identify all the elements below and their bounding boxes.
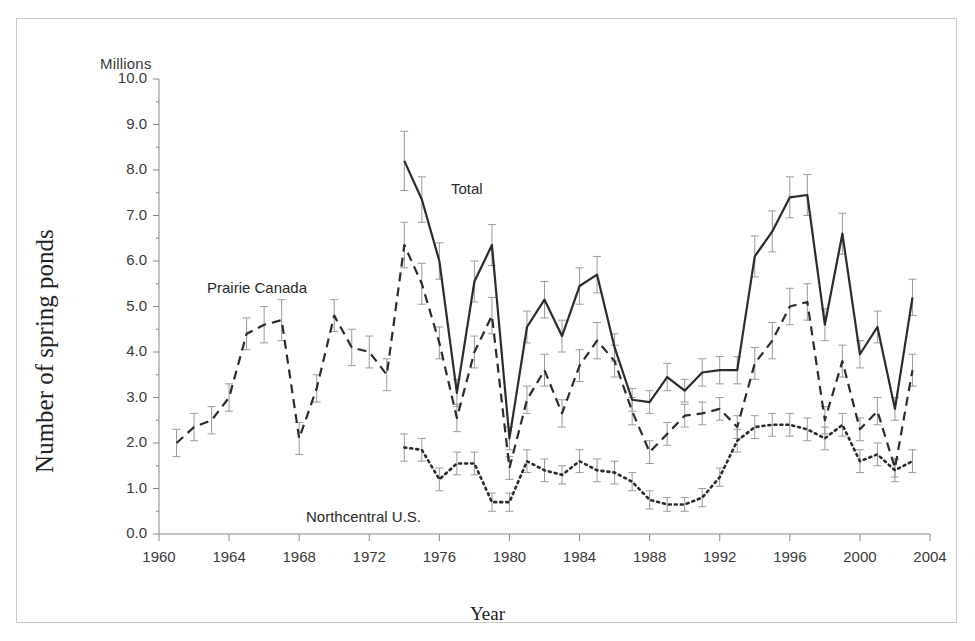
y-tick-label: 1.0 (101, 479, 147, 496)
y-tick-label: 6.0 (101, 251, 147, 268)
series-line-northcentral-u-s (404, 425, 912, 505)
y-tick-label: 9.0 (101, 115, 147, 132)
y-tick-label: 4.0 (101, 342, 147, 359)
x-tick-label: 1984 (550, 548, 610, 565)
x-tick-label: 1992 (690, 548, 750, 565)
x-tick-label: 2004 (900, 548, 960, 565)
x-tick-label: 1960 (129, 548, 189, 565)
x-tick-label: 1996 (760, 548, 820, 565)
y-tick-label: 2.0 (101, 433, 147, 450)
y-tick-label: 7.0 (101, 206, 147, 223)
series-line-total (404, 161, 912, 439)
chart-canvas (17, 19, 958, 624)
chart-figure: Millions Number of spring ponds Year 0.0… (16, 18, 957, 623)
x-tick-label: 1980 (479, 548, 539, 565)
x-tick-label: 2000 (830, 548, 890, 565)
series-label-prairie-canada: Prairie Canada (207, 279, 307, 296)
plot-area: 0.01.02.03.04.05.06.07.08.09.010.0196019… (17, 19, 958, 624)
y-tick-label: 3.0 (101, 388, 147, 405)
y-tick-label: 0.0 (101, 524, 147, 541)
x-tick-label: 1968 (269, 548, 329, 565)
x-tick-label: 1988 (620, 548, 680, 565)
y-tick-label: 8.0 (101, 160, 147, 177)
x-tick-label: 1972 (339, 548, 399, 565)
x-tick-label: 1964 (199, 548, 259, 565)
x-tick-label: 1976 (409, 548, 469, 565)
series-label-northcentral-us: Northcentral U.S. (306, 508, 421, 525)
series-label-total: Total (451, 180, 483, 197)
y-tick-label: 5.0 (101, 297, 147, 314)
y-tick-label: 10.0 (101, 69, 147, 86)
